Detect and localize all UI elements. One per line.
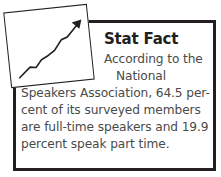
body-line: cent of its surveyed members xyxy=(21,103,201,117)
trend-chart-icon xyxy=(3,4,94,88)
body-line: percent speak part time. xyxy=(21,137,169,151)
body-line: are full-time speakers and 19.9 xyxy=(21,120,208,134)
box-title: Stat Fact xyxy=(104,30,178,48)
body-line: Speakers Association, 64.5 per- xyxy=(21,86,210,100)
body-line: National xyxy=(116,69,166,83)
body-line: According to the xyxy=(104,52,203,66)
